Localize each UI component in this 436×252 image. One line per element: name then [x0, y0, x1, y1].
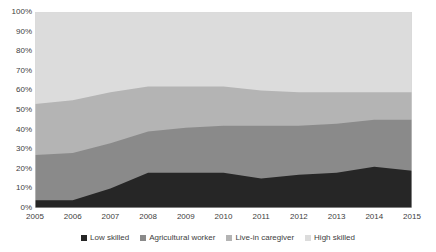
y-axis-tick-label: 50% [0, 106, 32, 114]
chart-legend: Low skilledAgricultural workerLive-in ca… [0, 233, 436, 242]
legend-swatch-icon [226, 235, 232, 241]
y-axis-tick-label: 30% [0, 145, 32, 153]
y-axis-tick-label: 80% [0, 47, 32, 55]
x-axis-tick-label: 2007 [101, 212, 119, 222]
legend-item[interactable]: High skilled [305, 233, 355, 242]
legend-swatch-icon [140, 235, 146, 241]
x-axis-tick-label: 2005 [26, 212, 44, 222]
stacked-area-chart: 0%10%20%30%40%50%60%70%80%90%100% 200520… [0, 0, 436, 252]
x-axis-tick-label: 2006 [64, 212, 82, 222]
x-axis-tick-label: 2014 [365, 212, 383, 222]
legend-item[interactable]: Live-in caregiver [226, 233, 294, 242]
x-axis-tick-label: 2008 [139, 212, 157, 222]
x-axis: 2005200620072008200920102011201220132014… [35, 212, 412, 224]
plot-svg [35, 12, 412, 208]
legend-item-label: Agricultural worker [149, 233, 215, 242]
y-axis-tick-label: 100% [0, 8, 32, 16]
x-axis-tick-label: 2011 [253, 212, 270, 222]
y-axis-tick-label: 0% [0, 204, 32, 212]
x-axis-tick-label: 2015 [403, 212, 421, 222]
y-axis-tick-label: 70% [0, 67, 32, 75]
y-axis-tick-label: 10% [0, 184, 32, 192]
legend-item[interactable]: Agricultural worker [140, 233, 215, 242]
plot-area [35, 12, 412, 208]
legend-item-label: Low skilled [90, 233, 129, 242]
y-axis: 0%10%20%30%40%50%60%70%80%90%100% [0, 12, 32, 208]
y-axis-tick-label: 40% [0, 126, 32, 134]
legend-item[interactable]: Low skilled [81, 233, 129, 242]
legend-swatch-icon [81, 235, 87, 241]
x-axis-tick-label: 2013 [328, 212, 346, 222]
legend-item-label: High skilled [314, 233, 355, 242]
x-axis-tick-label: 2012 [290, 212, 308, 222]
y-axis-tick-label: 60% [0, 86, 32, 94]
legend-swatch-icon [305, 235, 311, 241]
y-axis-tick-label: 20% [0, 165, 32, 173]
legend-item-label: Live-in caregiver [235, 233, 294, 242]
x-axis-tick-label: 2009 [177, 212, 195, 222]
y-axis-tick-label: 90% [0, 28, 32, 36]
x-axis-tick-label: 2010 [215, 212, 233, 222]
